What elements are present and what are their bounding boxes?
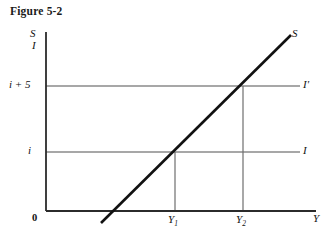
economics-chart-graphic [0, 0, 330, 248]
curve-s [101, 35, 291, 223]
line-label-i: I [303, 144, 307, 156]
y-axis-label-i: I [32, 39, 36, 51]
y-tick-label-i-plus-5: i + 5 [9, 78, 30, 90]
figure-panel: Figure 5-2 S I i + 5 i 0 Y1 Y2 Y S I' I [0, 0, 330, 248]
x-tick-label-y2-subscript: 2 [242, 219, 246, 228]
origin-label: 0 [32, 212, 37, 223]
y-tick-label-i: i [28, 144, 31, 156]
x-axis-label-y: Y [313, 212, 319, 224]
y-axis-label-s: S [30, 27, 36, 39]
x-tick-label-y1-subscript: 1 [174, 219, 178, 228]
x-tick-label-y1: Y1 [168, 213, 178, 228]
curve-label-s: S [292, 27, 298, 39]
line-label-i-prime: I' [303, 78, 309, 90]
x-tick-label-y2: Y2 [236, 213, 246, 228]
